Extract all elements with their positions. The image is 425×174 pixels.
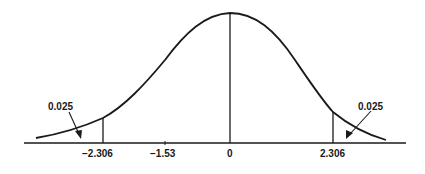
tick-label-observed: −1.53 [150,148,176,159]
tick-label-pos-crit: 2.306 [320,148,345,159]
t-distribution-chart: 0.025 0.025 −2.306 −1.53 0 2.306 [0,0,425,174]
right-tail-label: 0.025 [358,101,383,112]
left-tail-label: 0.025 [48,101,73,112]
left-arrow-head [75,130,82,139]
tick-label-neg-crit: −2.306 [82,148,113,159]
tick-label-zero: 0 [227,148,233,159]
